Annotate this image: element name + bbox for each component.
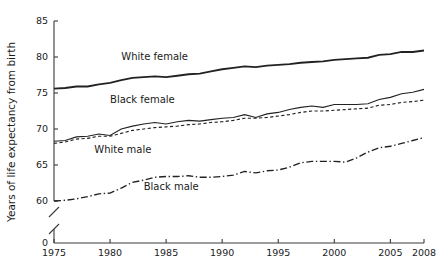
y-tick-label: 60 (36, 195, 48, 206)
x-tick-label: 1985 (154, 247, 178, 258)
y-tick-label: 85 (36, 15, 48, 26)
x-tick-label: 1980 (98, 247, 122, 258)
y-tick-label: 75 (36, 87, 48, 98)
chart-canvas: 0606570758085197519801985199019952000200… (0, 0, 439, 275)
series-label-white-male: White male (94, 144, 151, 155)
axis-break-mark-upper (49, 207, 59, 217)
y-axis-title: Years of life expectancy from birth (5, 42, 17, 223)
series-label-black-male: Black male (144, 181, 199, 192)
life-expectancy-chart: 0606570758085197519801985199019952000200… (0, 0, 439, 275)
series-line-white-male (54, 100, 424, 143)
x-tick-label: 1995 (266, 247, 290, 258)
series-label-black-female: Black female (110, 94, 175, 105)
data-series (54, 51, 424, 201)
x-tick-label: 2000 (322, 247, 346, 258)
chart-axes (49, 21, 424, 243)
y-tick-label: 80 (36, 51, 48, 62)
x-tick-label: 1975 (42, 247, 66, 258)
y-tick-label: 65 (36, 159, 48, 170)
x-tick-label: 2005 (378, 247, 402, 258)
x-tick-label: 1990 (210, 247, 234, 258)
x-tick-label: 2008 (412, 247, 436, 258)
series-label-white-female: White female (121, 51, 188, 62)
tick-labels: 0606570758085197519801985199019952000200… (36, 15, 436, 257)
series-line-white-female (54, 51, 424, 89)
y-tick-label: 70 (36, 123, 48, 134)
